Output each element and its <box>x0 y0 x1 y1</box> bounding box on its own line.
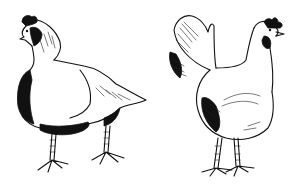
left-chicken-drawing <box>0 0 150 192</box>
illustration: Black and white ink illustration of two … <box>0 0 301 192</box>
left-chicken <box>0 0 150 192</box>
right-chicken-drawing <box>150 0 301 192</box>
right-chicken <box>150 0 301 192</box>
